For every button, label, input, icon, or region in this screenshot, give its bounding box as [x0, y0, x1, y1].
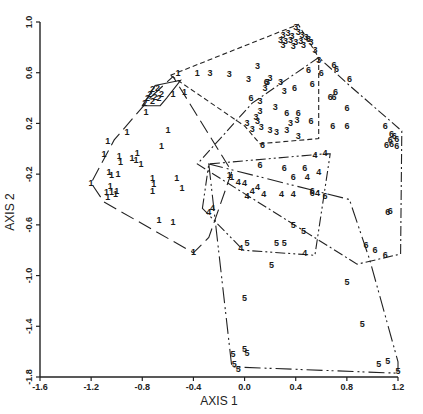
point-group-4: 4 — [261, 189, 266, 199]
point-group-3: 3 — [208, 68, 213, 78]
point-group-5: 5 — [269, 260, 274, 270]
point-group-5: 5 — [282, 238, 287, 248]
point-group-4: 4 — [279, 189, 284, 199]
point-group-4: 4 — [323, 148, 328, 158]
point-group-6: 6 — [282, 163, 287, 173]
point-group-5: 5 — [301, 226, 306, 236]
point-group-6: 6 — [330, 121, 335, 131]
point-group-5: 5 — [245, 238, 250, 248]
point-group-4: 4 — [242, 178, 247, 188]
point-group-5: 5 — [231, 349, 236, 359]
point-group-2: 2 — [150, 96, 155, 106]
point-group-3: 3 — [246, 74, 251, 84]
x-axis-title: AXIS 1 — [200, 394, 238, 408]
point-group-1: 1 — [115, 169, 120, 179]
hull-group-4 — [202, 154, 330, 255]
point-group-3: 3 — [280, 40, 285, 50]
point-group-1: 1 — [174, 173, 179, 183]
point-group-1: 1 — [195, 68, 200, 78]
point-group-1: 1 — [165, 125, 170, 135]
point-group-3: 3 — [282, 86, 287, 96]
y-tick-label: 1.0 — [24, 16, 34, 29]
point-group-5: 5 — [385, 356, 390, 366]
point-group-6: 6 — [323, 191, 328, 201]
point-group-6: 6 — [384, 140, 389, 150]
point-group-1: 1 — [182, 87, 187, 97]
hull-group-6 — [197, 58, 401, 265]
point-group-1: 1 — [135, 148, 140, 158]
y-tick-label: -1.4 — [24, 319, 34, 335]
point-group-5: 5 — [395, 366, 400, 376]
point-group-1: 1 — [138, 159, 143, 169]
point-group-6: 6 — [309, 116, 314, 126]
point-group-3: 3 — [227, 69, 232, 79]
point-group-6: 6 — [306, 65, 311, 75]
point-group-6: 6 — [344, 103, 349, 113]
point-group-5: 5 — [274, 238, 279, 248]
point-group-1: 1 — [159, 141, 164, 151]
point-group-1: 1 — [105, 136, 110, 146]
point-group-3: 3 — [291, 41, 296, 51]
point-group-1: 1 — [101, 149, 106, 159]
point-group-6: 6 — [296, 108, 301, 118]
point-group-6: 6 — [319, 68, 324, 78]
point-group-5: 5 — [291, 220, 296, 230]
point-group-1: 1 — [229, 172, 234, 182]
point-group-4: 4 — [236, 177, 241, 187]
point-group-1: 1 — [109, 170, 114, 180]
point-group-1: 1 — [150, 186, 155, 196]
point-group-4: 4 — [255, 182, 260, 192]
point-group-3: 3 — [274, 127, 279, 137]
point-group-1: 1 — [156, 215, 161, 225]
point-group-5: 5 — [242, 293, 247, 303]
point-group-5: 5 — [376, 359, 381, 369]
point-group-5: 5 — [360, 319, 365, 329]
point-group-3: 3 — [250, 124, 255, 134]
point-group-5: 5 — [344, 277, 349, 287]
point-group-5: 5 — [236, 364, 241, 374]
point-group-1: 1 — [170, 89, 175, 99]
point-group-6: 6 — [388, 206, 393, 216]
y-tick-label: 0.2 — [24, 117, 34, 130]
y-tick-label: -0.6 — [24, 217, 34, 233]
point-group-4: 4 — [316, 167, 321, 177]
x-tick-label: -0.8 — [135, 382, 151, 392]
point-group-1: 1 — [176, 68, 181, 78]
point-group-1: 1 — [118, 157, 123, 167]
point-group-3: 3 — [312, 45, 317, 55]
hull-group-5 — [209, 164, 398, 373]
point-group-6: 6 — [291, 172, 296, 182]
point-group-1: 1 — [144, 107, 149, 117]
point-group-6: 6 — [310, 188, 315, 198]
point-group-5: 5 — [245, 348, 250, 358]
point-group-1: 1 — [124, 127, 129, 137]
x-axis-ticks: -1.6-1.2-0.8-0.40.00.40.81.2 — [32, 377, 404, 392]
x-tick-label: 1.2 — [392, 382, 405, 392]
point-group-6: 6 — [310, 79, 315, 89]
point-group-6: 6 — [332, 92, 337, 102]
point-group-6: 6 — [334, 64, 339, 74]
point-group-6: 6 — [292, 83, 297, 93]
point-group-3: 3 — [259, 122, 264, 132]
point-group-6: 6 — [344, 121, 349, 131]
point-group-6: 6 — [383, 250, 388, 260]
point-group-4: 4 — [315, 188, 320, 198]
point-group-6: 6 — [363, 240, 368, 250]
y-axis-title: AXIS 2 — [3, 193, 17, 231]
point-group-3: 3 — [296, 131, 301, 141]
y-tick-label: -1.0 — [24, 268, 34, 284]
point-group-6: 6 — [383, 121, 388, 131]
point-group-2: 2 — [142, 98, 147, 108]
point-group-3: 3 — [316, 55, 321, 65]
point-group-3: 3 — [268, 125, 273, 135]
x-tick-label: -1.2 — [83, 382, 99, 392]
point-group-4: 4 — [210, 203, 215, 213]
point-group-3: 3 — [257, 96, 262, 106]
point-group-3: 3 — [273, 102, 278, 112]
y-tick-label: -1.8 — [24, 369, 34, 385]
y-tick-label: 0.6 — [24, 66, 34, 79]
x-tick-label: 0.4 — [289, 382, 302, 392]
ordination-scatter-plot: 1111111111111111111111111111111111112222… — [0, 0, 423, 414]
x-tick-label: -0.4 — [186, 382, 202, 392]
point-group-6: 6 — [260, 140, 265, 150]
